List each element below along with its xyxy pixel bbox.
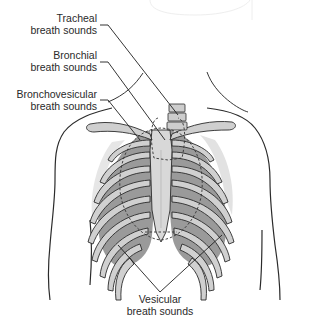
label-vesicular-line1: Vesicular [120,293,200,305]
label-vesicular: Vesicular breath sounds [120,293,200,317]
label-bronchial-line1: Bronchial [10,49,97,61]
label-tracheal-line1: Tracheal [10,12,97,24]
head-outline [150,0,250,15]
label-tracheal: Tracheal breath sounds [10,12,97,36]
label-bronchial: Bronchial breath sounds [10,49,97,73]
chest-breath-sounds-diagram: Tracheal breath sounds Bronchial breath … [0,0,320,325]
sternum [150,130,172,242]
leader-tracheal [100,25,178,115]
label-tracheal-line2: breath sounds [10,24,97,36]
label-bronchial-line2: breath sounds [10,61,97,73]
label-bronchovesicular-line1: Bronchovesicular [2,88,97,100]
label-bronchovesicular: Bronchovesicular breath sounds [2,88,97,112]
label-vesicular-line2: breath sounds [120,305,200,317]
label-bronchovesicular-line2: breath sounds [2,100,97,112]
trachea [167,104,187,130]
